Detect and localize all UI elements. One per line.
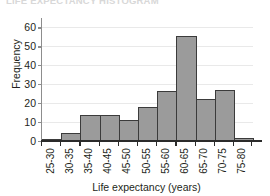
x-tick-label: 70-75 (218, 148, 228, 174)
x-tick-mark (41, 141, 42, 146)
histogram-figure: LIFE EXPECTANCY HISTOGRAM Frequency 0102… (0, 0, 270, 196)
x-tick-label: 60-65 (180, 148, 190, 174)
bar-series (42, 18, 253, 141)
x-tick-mark (195, 141, 196, 146)
x-tick-mark (137, 141, 138, 146)
x-tick-mark (233, 141, 234, 146)
histogram-bar (157, 91, 178, 141)
x-tick-cell (233, 141, 252, 146)
y-axis-tick-labels: 0102030405060 (14, 0, 36, 196)
x-tick-label: 40-45 (103, 148, 113, 174)
x-tick-mark (251, 141, 252, 146)
x-tick-label: 75-80 (237, 148, 247, 174)
x-tick-mark (60, 141, 61, 146)
x-tick-label-cell: 35-40 (79, 147, 98, 179)
x-tick-label-cell: 40-45 (99, 147, 118, 179)
x-tick-mark (156, 141, 157, 146)
x-tick-label-cell: 50-55 (137, 147, 156, 179)
y-tick-label: 50 (14, 41, 36, 51)
plot-area (41, 18, 252, 141)
histogram-bar (100, 115, 121, 141)
x-tick-label-cell: 60-65 (175, 147, 194, 179)
histogram-bar (80, 115, 101, 141)
x-tick-label: 50-55 (142, 148, 152, 174)
x-tick-mark (99, 141, 100, 146)
x-tick-cell (79, 141, 98, 146)
x-tick-label-cell: 55-60 (156, 147, 175, 179)
x-tick-mark (79, 141, 80, 146)
y-tick-label: 30 (14, 79, 36, 89)
x-tick-mark (175, 141, 176, 146)
histogram-bar (176, 36, 197, 141)
x-tick-label-cell: 70-75 (214, 147, 233, 179)
x-tick-cell (118, 141, 137, 146)
x-tick-label-cell: 45-50 (118, 147, 137, 179)
y-tick-label: 20 (14, 98, 36, 108)
histogram-bar (138, 107, 159, 141)
histogram-bar (196, 99, 217, 141)
x-tick-label-cell: 65-70 (195, 147, 214, 179)
x-tick-label: 30-35 (65, 148, 75, 174)
x-tick-mark (214, 141, 215, 146)
x-axis-tick-labels: 25-3030-3535-4040-4545-5050-5555-6060-65… (41, 147, 252, 179)
x-tick-label: 65-70 (199, 148, 209, 174)
y-tick-label: 60 (14, 22, 36, 32)
x-tick-label: 25-30 (46, 148, 56, 174)
x-tick-label-cell: 30-35 (60, 147, 79, 179)
x-tick-cell (195, 141, 214, 146)
x-tick-label: 45-50 (122, 148, 132, 174)
x-tick-label: 55-60 (161, 148, 171, 174)
histogram-bar (215, 90, 236, 141)
clipped-heading: LIFE EXPECTANCY HISTOGRAM (6, 0, 206, 4)
histogram-bar (119, 120, 140, 141)
x-tick-label-cell: 75-80 (233, 147, 252, 179)
x-tick-cell (137, 141, 156, 146)
x-tick-cell (99, 141, 118, 146)
x-tick-cell (156, 141, 175, 146)
x-tick-mark (118, 141, 119, 146)
y-tick-label: 40 (14, 60, 36, 70)
x-tick-cell (60, 141, 79, 146)
y-tick-label: 0 (14, 136, 36, 146)
x-tick-label: 35-40 (84, 148, 94, 174)
x-tick-label-cell: 25-30 (41, 147, 60, 179)
x-axis-title: Life expectancy (years) (41, 181, 252, 193)
x-tick-cell (175, 141, 194, 146)
x-axis-tick-marks (41, 141, 252, 146)
x-tick-cell (41, 141, 60, 146)
y-tick-label: 10 (14, 117, 36, 127)
x-tick-cell (214, 141, 233, 146)
